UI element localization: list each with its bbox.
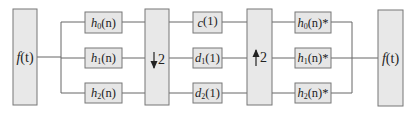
synthesis-filter-label: h2(n)* — [297, 86, 328, 101]
synthesis-filter-label: h0(n)* — [297, 16, 328, 31]
coefficient-d1: d1(1) — [193, 48, 222, 68]
upsampler-block: 2 — [247, 9, 272, 105]
analysis-filter-1: h1(n) — [85, 48, 122, 68]
analysis-filter-label: h0(n) — [91, 16, 116, 31]
downsampler-block: 2 — [145, 9, 169, 105]
upsample-factor: 2 — [260, 50, 267, 65]
coefficient-label: d2(1) — [195, 86, 220, 101]
analysis-filter-2: h2(n) — [85, 83, 122, 103]
coefficient-d2: d2(1) — [193, 83, 222, 103]
analysis-filter-label: h1(n) — [91, 51, 116, 66]
synthesis-filter-0: h0(n)* — [295, 12, 331, 33]
coefficient-label: d1(1) — [195, 51, 220, 66]
analysis-filter-label: h2(n) — [91, 86, 116, 101]
input-signal-label: f(t) — [16, 50, 33, 66]
filter-bank-diagram: f(t) h0(n) h1(n) h2(n) 2 c(1) d1(1) d2(1… — [0, 0, 414, 113]
downsample-factor: 2 — [158, 52, 165, 67]
output-signal-block: f(t) — [378, 10, 403, 106]
synthesis-filter-1: h1(n)* — [295, 48, 331, 68]
coefficient-c: c(1) — [193, 12, 222, 33]
coefficient-label: c(1) — [197, 14, 217, 30]
input-signal-block: f(t) — [13, 9, 37, 105]
synthesis-filter-label: h1(n)* — [297, 51, 328, 66]
synthesis-filter-2: h2(n)* — [295, 83, 331, 103]
analysis-filter-0: h0(n) — [85, 12, 122, 33]
output-signal-label: f(t) — [382, 51, 399, 67]
